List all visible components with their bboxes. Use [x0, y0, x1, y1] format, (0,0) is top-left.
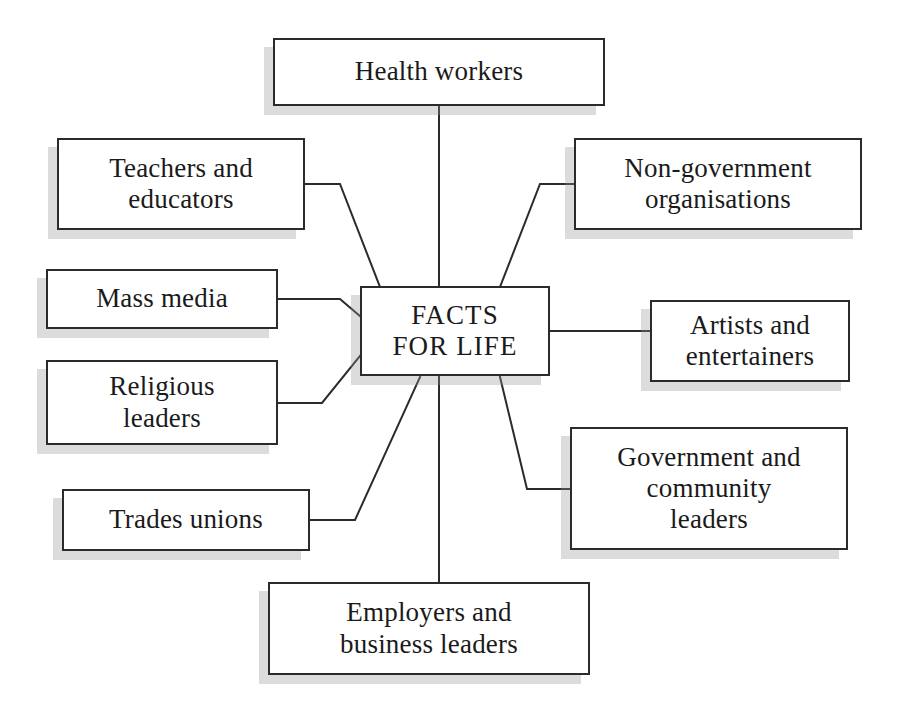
- edge-hub-non-government-organisations: [500, 184, 574, 287]
- node-label: Mass media: [88, 283, 236, 314]
- node-government-and-community-leaders[interactable]: Government and community leaders: [570, 427, 848, 550]
- diagram-canvas: Health workers Teachers and educators Ma…: [0, 0, 899, 725]
- node-trades-unions[interactable]: Trades unions: [62, 489, 310, 551]
- node-label: Teachers and educators: [101, 153, 261, 216]
- edge-hub-government-and-community-leaders: [500, 377, 570, 489]
- node-label: Non-government organisations: [616, 153, 819, 216]
- node-label: Religious leaders: [101, 371, 222, 434]
- node-mass-media[interactable]: Mass media: [46, 269, 278, 329]
- node-label: Health workers: [347, 56, 532, 87]
- node-label: Trades unions: [101, 504, 271, 535]
- node-religious-leaders[interactable]: Religious leaders: [46, 360, 278, 445]
- node-label: Employers and business leaders: [332, 597, 526, 660]
- node-label: Artists and entertainers: [678, 310, 822, 373]
- edge-hub-religious-leaders: [278, 356, 360, 403]
- edge-hub-teachers-and-educators: [305, 184, 380, 287]
- node-non-government-organisations[interactable]: Non-government organisations: [574, 138, 862, 230]
- node-label: Government and community leaders: [609, 442, 809, 536]
- node-hub-facts-for-life[interactable]: FACTS FOR LIFE: [360, 286, 550, 376]
- node-health-workers[interactable]: Health workers: [273, 38, 605, 106]
- node-employers-and-business-leaders[interactable]: Employers and business leaders: [268, 582, 590, 675]
- node-artists-and-entertainers[interactable]: Artists and entertainers: [650, 300, 850, 382]
- node-teachers-and-educators[interactable]: Teachers and educators: [57, 138, 305, 230]
- edge-hub-mass-media: [278, 299, 360, 316]
- hub-label: FACTS FOR LIFE: [384, 300, 525, 363]
